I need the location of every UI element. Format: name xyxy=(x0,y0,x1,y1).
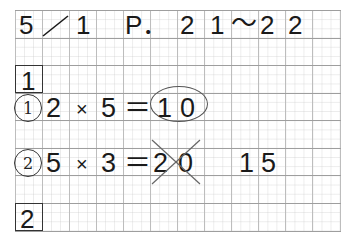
expr-operator: × xyxy=(76,99,88,119)
header-date: 5 xyxy=(19,12,33,38)
slash-mark xyxy=(42,14,69,38)
cross-out-mark xyxy=(150,138,202,186)
expr-term: 3 xyxy=(101,150,116,177)
grid-line xyxy=(15,65,341,66)
header-page-digit: 2 xyxy=(180,12,194,38)
header-month-day: 1 xyxy=(76,12,90,38)
problem-marker: 1 xyxy=(23,99,33,118)
correction-digit: 1 xyxy=(239,150,254,177)
header-page-digit: 2 xyxy=(288,12,302,38)
expr-operator: × xyxy=(76,154,88,174)
grid-line xyxy=(15,203,341,204)
section-number: 1 xyxy=(21,68,35,94)
header-range-tilde: 〜 xyxy=(231,10,257,36)
header-page-digit: 2 xyxy=(260,12,274,38)
correction-digit: 5 xyxy=(261,150,276,177)
expr-equals: ＝ xyxy=(124,150,151,177)
answer-digit: 1 xyxy=(157,95,172,122)
expr-equals: ＝ xyxy=(124,95,151,122)
section-number: 2 xyxy=(20,206,34,232)
header-page-digit: 1 xyxy=(210,12,224,38)
expr-term: 5 xyxy=(101,95,116,122)
problem-marker: 2 xyxy=(23,154,33,173)
expr-term: 2 xyxy=(46,95,61,122)
problem-marker-circle: 2 xyxy=(14,149,42,177)
header-page-label: P． xyxy=(125,12,168,38)
problem-marker-circle: 1 xyxy=(14,94,42,122)
grid-line xyxy=(15,231,341,232)
answer-digit: 0 xyxy=(180,95,195,122)
expr-term: 5 xyxy=(46,150,61,177)
